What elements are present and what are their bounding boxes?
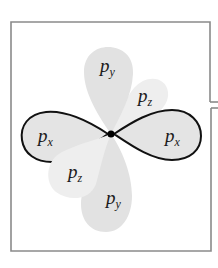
nucleus-dot	[107, 130, 114, 137]
p-orbitals-diagram: py pz px px pz py	[0, 0, 218, 268]
